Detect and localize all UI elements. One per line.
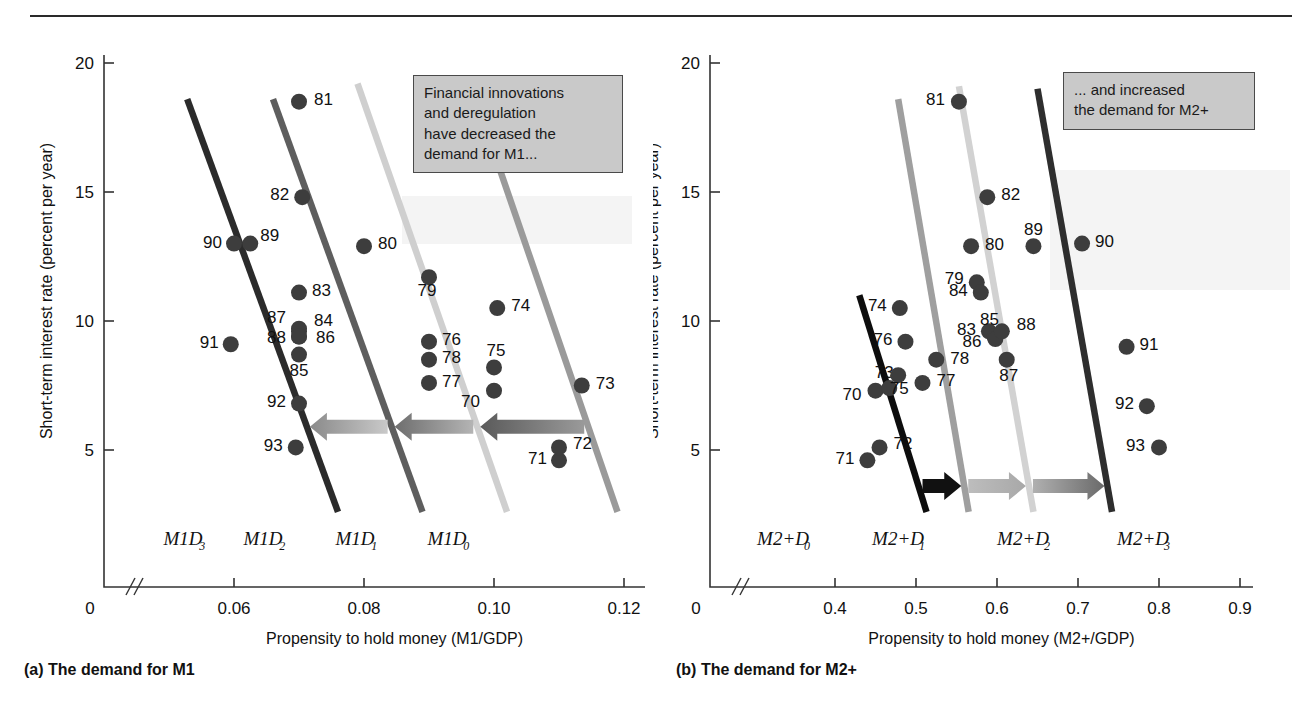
x-tick-label: 0.12 [607, 599, 640, 618]
data-point-89 [1025, 238, 1041, 254]
curve-label-M1D1: M1D1 [334, 528, 377, 553]
annotation-m1-line-1: and deregulation [424, 103, 612, 123]
demand-curve-M2+D2 [959, 86, 1034, 512]
data-point-88 [291, 328, 307, 344]
data-point-label-91: 91 [1140, 335, 1159, 354]
data-point-label-86: 86 [962, 332, 981, 351]
data-point-label-80: 80 [985, 235, 1004, 254]
data-point-75 [486, 359, 502, 375]
data-point-74 [489, 300, 505, 316]
data-point-label-71: 71 [528, 449, 547, 468]
annotation-box-m1: Financial innovationsand deregulationhav… [413, 75, 623, 173]
y-tick-label: 5 [85, 441, 94, 460]
data-point-91 [223, 336, 239, 352]
curve-label-text: M1D [426, 528, 466, 549]
curve-label-M1D2: M1D2 [242, 528, 285, 553]
data-point-label-92: 92 [267, 392, 286, 411]
y-tick-label: 20 [681, 54, 700, 73]
x-tick-label: 0.6 [985, 599, 1009, 618]
data-point-76 [897, 334, 913, 350]
shift-arrow-2 [968, 472, 1026, 500]
data-point-label-76: 76 [442, 330, 461, 349]
demand-curve-M1D3 [187, 99, 338, 512]
data-point-label-87: 87 [267, 308, 286, 327]
data-point-label-73: 73 [596, 374, 615, 393]
curve-label-text: M2+D [1116, 528, 1169, 549]
curve-label-text: M2+D [996, 528, 1049, 549]
annotation-m2plus-line-1: the demand for M2+ [1074, 100, 1244, 120]
data-point-74 [892, 300, 908, 316]
data-point-92 [291, 396, 307, 412]
data-point-label-74: 74 [511, 296, 530, 315]
data-point-80 [963, 238, 979, 254]
annotation-m1-line-0: Financial innovations [424, 83, 612, 103]
data-point-84 [973, 285, 989, 301]
annotation-m2plus-line-0: ... and increased [1074, 80, 1244, 100]
curve-label-text: M2+D [871, 528, 924, 549]
shift-arrow-3 [480, 413, 584, 441]
curve-label-subscript: 3 [198, 539, 205, 553]
data-point-label-87: 87 [999, 366, 1018, 385]
data-point-81 [951, 94, 967, 110]
x-tick-label-zero: 0 [691, 599, 700, 618]
data-point-71 [859, 452, 875, 468]
curve-label-text: M1D [334, 528, 374, 549]
data-point-label-77: 77 [442, 372, 461, 391]
shift-arrow-1 [310, 413, 388, 441]
annotation-m1-line-3: demand for M1... [424, 144, 612, 164]
data-point-90 [1074, 236, 1090, 252]
data-point-77 [421, 375, 437, 391]
data-point-label-80: 80 [378, 234, 397, 253]
data-point-label-79: 79 [418, 281, 437, 300]
data-point-90 [226, 236, 242, 252]
data-point-label-93: 93 [1126, 436, 1145, 455]
x-tick-label: 0.8 [1147, 599, 1171, 618]
y-tick-label: 10 [75, 312, 94, 331]
y-axis-title: Short-term interest rate (percent per ye… [653, 143, 661, 439]
data-point-label-75: 75 [487, 341, 506, 360]
curve-label-subscript: 2 [279, 539, 285, 553]
curve-label-subscript: 1 [919, 539, 925, 553]
data-point-label-84: 84 [314, 311, 333, 330]
data-point-80 [356, 238, 372, 254]
y-tick-label: 15 [75, 183, 94, 202]
curve-label-text: M1D [162, 528, 202, 549]
data-point-81 [291, 94, 307, 110]
data-point-label-81: 81 [314, 90, 333, 109]
data-point-72 [872, 439, 888, 455]
data-point-label-78: 78 [950, 349, 969, 368]
data-point-label-88: 88 [267, 328, 286, 347]
x-tick-label-zero: 0 [85, 599, 94, 618]
curve-label-M1D3: M1D3 [162, 528, 205, 553]
data-point-label-92: 92 [1115, 394, 1134, 413]
data-point-92 [1139, 398, 1155, 414]
data-point-label-89: 89 [1024, 220, 1043, 239]
curve-label-M2+D0: M2+D0 [756, 528, 810, 553]
data-point-73 [574, 378, 590, 394]
data-point-label-90: 90 [1095, 232, 1114, 251]
data-point-label-72: 72 [573, 434, 592, 453]
curve-label-subscript: 0 [463, 539, 469, 553]
curve-label-subscript: 3 [1163, 539, 1170, 553]
data-point-88 [994, 323, 1010, 339]
data-point-label-88: 88 [1017, 315, 1036, 334]
data-point-label-93: 93 [264, 436, 283, 455]
x-axis-title: Propensity to hold money (M1/GDP) [266, 630, 523, 647]
data-point-77 [914, 375, 930, 391]
x-tick-label: 0.10 [477, 599, 510, 618]
data-point-label-89: 89 [260, 226, 279, 245]
data-point-label-74: 74 [868, 296, 887, 315]
data-point-label-70: 70 [843, 385, 862, 404]
shift-arrow-3 [1033, 472, 1105, 500]
data-point-label-85: 85 [290, 361, 309, 380]
curve-label-subscript: 1 [371, 539, 377, 553]
data-point-label-81: 81 [926, 90, 945, 109]
x-tick-label: 0.08 [347, 599, 380, 618]
data-point-label-77: 77 [936, 371, 955, 390]
data-point-83 [291, 285, 307, 301]
data-point-93 [288, 439, 304, 455]
data-point-91 [1119, 339, 1135, 355]
data-point-label-82: 82 [270, 185, 289, 204]
data-point-label-91: 91 [200, 333, 219, 352]
x-tick-label: 0.7 [1066, 599, 1090, 618]
